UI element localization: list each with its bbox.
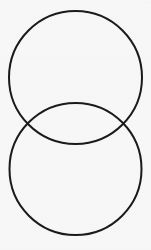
two-circles-figure [0, 0, 151, 250]
figure-canvas: Two Overlapping Circles Two equal circle… [0, 0, 151, 250]
